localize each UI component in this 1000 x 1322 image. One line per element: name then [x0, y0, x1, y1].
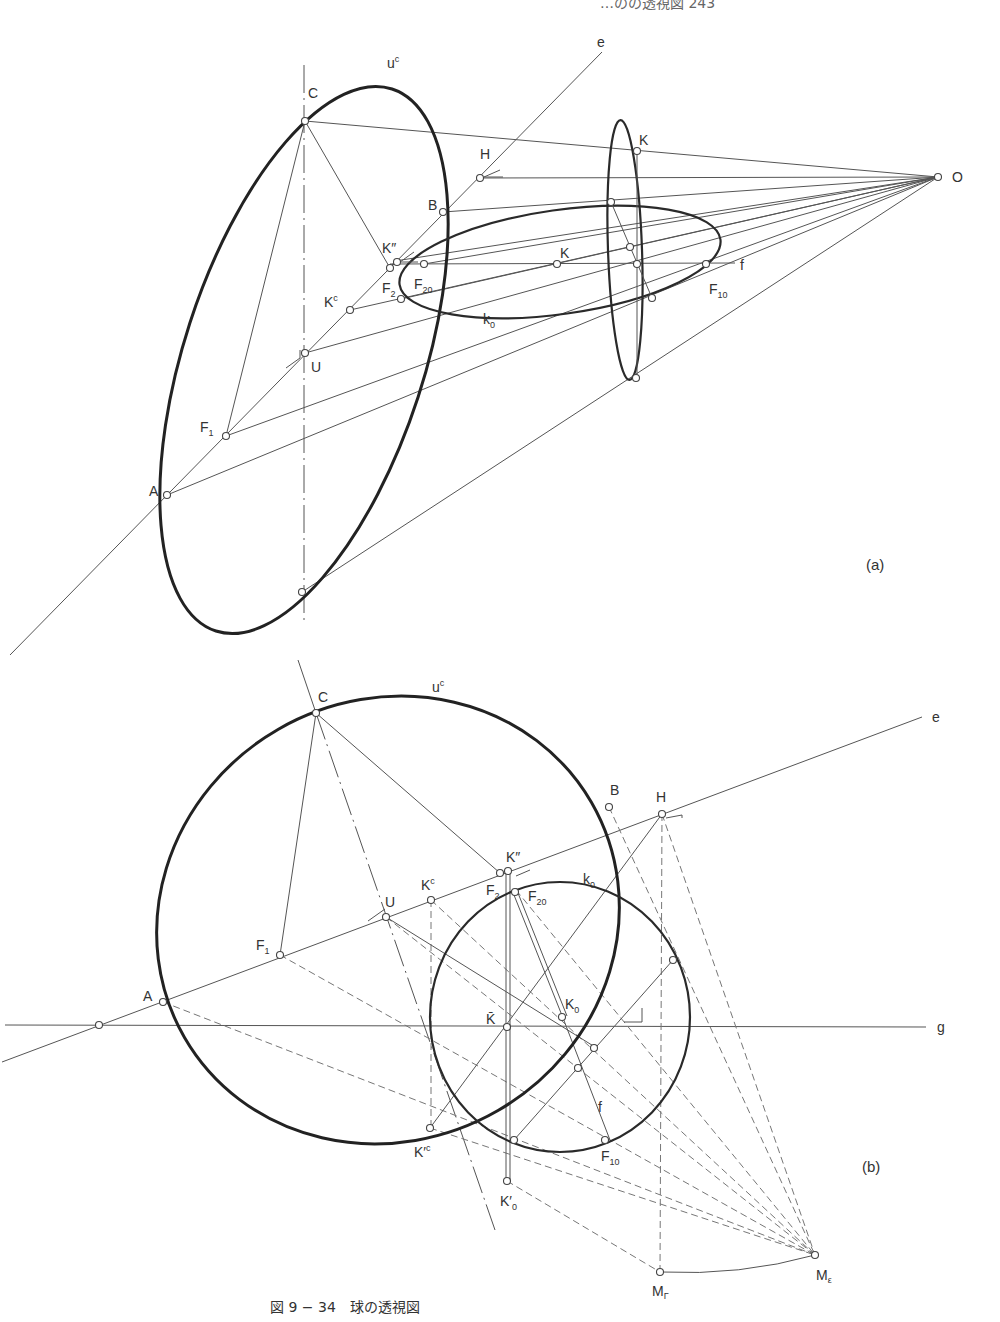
rays-to-O: [167, 121, 938, 592]
label-F1-a: F1: [200, 419, 214, 438]
label-F20-a: F20: [414, 276, 433, 295]
label-Kbar-b: K̄: [486, 1011, 496, 1027]
label-F10-b: F10: [601, 1148, 620, 1167]
label-U-a: U: [311, 359, 321, 375]
label-H-b: H: [656, 789, 666, 805]
ellipse-vertical-a: [603, 119, 646, 380]
label-uc-a: uc: [387, 54, 400, 71]
panel-label-b: (b): [862, 1158, 880, 1175]
arc-M: [660, 1255, 815, 1273]
label-Mgamma-b: MΓ: [652, 1283, 669, 1301]
label-Kc-a: Kc: [324, 293, 338, 310]
figure-caption: 図 9 − 34 球の透視図: [270, 1296, 420, 1316]
label-Meps-b: Mε: [816, 1267, 832, 1285]
label-k0-b: k0: [583, 871, 595, 890]
panel-label-a: (a): [866, 556, 884, 573]
label-g-b: g: [937, 1019, 945, 1035]
label-f-b: f: [598, 1099, 602, 1115]
label-F2-b: F2: [486, 882, 500, 901]
label-F1-b: F1: [256, 937, 270, 956]
points-a: [164, 118, 942, 596]
label-F10-a: F10: [709, 281, 728, 300]
label-Kdd-b: K″: [506, 849, 520, 865]
label-H-a: H: [480, 146, 490, 162]
label-e-a: e: [597, 34, 605, 50]
line-g-b: [5, 1025, 926, 1027]
dashed-rays-b: [163, 807, 815, 1272]
label-F20-b: F20: [528, 888, 547, 907]
label-B-a: B: [428, 197, 437, 213]
label-Kprime-c-b: K′c: [414, 1143, 431, 1160]
label-C-b: C: [318, 689, 328, 705]
label-e-b: e: [932, 709, 940, 725]
label-k0-a: k0: [483, 311, 495, 330]
line-f: [390, 263, 735, 264]
label-A-a: A: [149, 483, 159, 499]
label-uc-b: uc: [432, 678, 445, 695]
line-e-b: [2, 717, 922, 1062]
label-O-a: O: [952, 169, 963, 185]
label-B-b: B: [610, 782, 619, 798]
label-K0-b: K0: [565, 996, 579, 1015]
label-F2-a: F2: [382, 280, 396, 299]
label-K-a: K: [560, 245, 570, 261]
sphere-perspective-figure: C uc e H B K O K″ K f F2 F20 F10 Kc k0 U…: [0, 0, 1000, 1322]
label-C-a: C: [308, 85, 318, 101]
label-K0prime-b: K′0: [500, 1193, 517, 1212]
panel-b: C uc e H B K″ k0 Kc U F2 F20 F1 A K̄ K0 …: [2, 612, 945, 1301]
label-Kc-b: Kc: [421, 876, 435, 893]
panel-a: C uc e H B K O K″ K f F2 F20 F10 Kc k0 U…: [10, 34, 963, 668]
label-K-top-a: K: [639, 132, 649, 148]
label-U-b: U: [385, 894, 395, 910]
label-A-b: A: [143, 988, 153, 1004]
label-f-a: f: [740, 257, 744, 273]
label-Kdd-a: K″: [382, 240, 396, 256]
